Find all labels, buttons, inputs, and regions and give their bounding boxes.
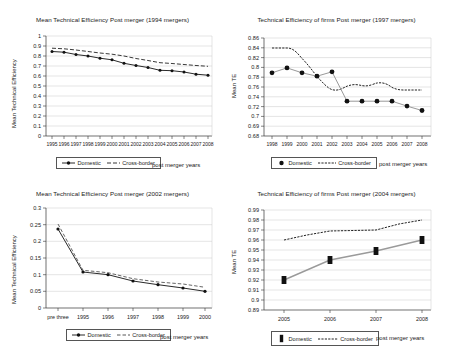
- svg-text:0.95: 0.95: [248, 247, 259, 253]
- svg-text:0.93: 0.93: [248, 267, 259, 273]
- svg-text:1997: 1997: [70, 141, 81, 147]
- svg-text:0.94: 0.94: [248, 257, 259, 263]
- gridlines: [264, 210, 431, 300]
- svg-text:1996: 1996: [102, 314, 114, 320]
- svg-text:2003: 2003: [341, 141, 352, 147]
- chart-legend[interactable]: Domestic Cross-border: [66, 329, 171, 341]
- svg-text:0.91: 0.91: [248, 287, 259, 293]
- series-domestic-line: [272, 68, 422, 111]
- svg-text:0.76: 0.76: [248, 84, 259, 90]
- series-crossborder: [58, 224, 205, 287]
- svg-text:2000: 2000: [199, 314, 211, 320]
- chart-panel-1997: Technical Efficiency of firms Post merge…: [224, 0, 449, 182]
- series-domestic: [58, 229, 205, 291]
- legend-item-domestic[interactable]: Domestic: [277, 334, 312, 343]
- svg-text:0.74: 0.74: [248, 94, 259, 100]
- svg-text:2005: 2005: [371, 141, 382, 147]
- legend-item-crossborder[interactable]: Cross-border: [117, 332, 165, 338]
- series-crossborder: [52, 48, 208, 66]
- svg-text:0.6: 0.6: [33, 73, 41, 79]
- x-axis-caption: post merger years: [152, 162, 200, 168]
- legend-domestic-icon: [72, 332, 85, 338]
- gridlines: [46, 208, 212, 291]
- plot-area: 10.9 0.80.7 0.60.5 0.40.3 0.20.1 0 19951…: [0, 0, 225, 182]
- svg-text:0.78: 0.78: [248, 74, 259, 80]
- svg-text:0: 0: [38, 305, 41, 311]
- x-ticks: [272, 136, 422, 139]
- x-tick-labels: 19951996 19971998 19992000 20012002 2003…: [46, 141, 213, 147]
- plot-svg: 0.860.84 0.820.8 0.780.76 0.740.72 0.70.…: [224, 0, 449, 182]
- svg-text:0.2: 0.2: [33, 238, 41, 244]
- legend-crossborder-icon: [117, 332, 130, 338]
- legend-domestic-icon: [277, 334, 286, 343]
- y-tick-labels: 0.860.84 0.820.8 0.780.76 0.740.72 0.70.…: [248, 35, 259, 139]
- figure-grid: Mean Technical Efficiency Post merger (1…: [0, 0, 449, 364]
- svg-text:2004: 2004: [154, 141, 165, 147]
- chart-legend[interactable]: Domestic Cross-border: [271, 331, 379, 346]
- svg-text:2000: 2000: [106, 141, 117, 147]
- svg-text:0.1: 0.1: [33, 272, 41, 278]
- legend-domestic-icon: [277, 160, 286, 166]
- svg-text:1: 1: [38, 33, 41, 39]
- x-axis-caption: post merger years: [379, 161, 427, 167]
- svg-text:2005: 2005: [278, 316, 290, 322]
- svg-text:0.3: 0.3: [33, 205, 41, 211]
- legend-domestic-icon: [62, 160, 75, 166]
- x-axis-caption: post merger years: [160, 334, 208, 340]
- svg-text:2003: 2003: [142, 141, 153, 147]
- svg-text:2008: 2008: [202, 141, 213, 147]
- svg-text:2007: 2007: [401, 141, 412, 147]
- legend-label-crossborder: Cross-border: [122, 160, 155, 166]
- svg-text:0.8: 0.8: [251, 64, 259, 70]
- svg-text:0.82: 0.82: [248, 55, 259, 61]
- svg-text:0.1: 0.1: [33, 123, 41, 129]
- legend-label-crossborder: Cross-border: [338, 160, 371, 166]
- legend-item-domestic[interactable]: Domestic: [72, 332, 111, 338]
- svg-text:0.15: 0.15: [30, 255, 41, 261]
- svg-text:2001: 2001: [311, 141, 322, 147]
- legend-item-crossborder[interactable]: Cross-border: [107, 160, 155, 166]
- svg-text:0.8: 0.8: [33, 53, 41, 59]
- svg-text:0.7: 0.7: [251, 113, 259, 119]
- svg-text:0.89: 0.89: [248, 307, 259, 313]
- y-tick-labels: 10.9 0.80.7 0.60.5 0.40.3 0.20.1 0: [33, 33, 41, 139]
- legend-label-crossborder: Cross-border: [340, 336, 373, 342]
- svg-text:2006: 2006: [324, 316, 336, 322]
- svg-text:1996: 1996: [58, 141, 69, 147]
- chart-panel-1994: Mean Technical Efficiency Post merger (1…: [0, 0, 225, 182]
- legend-label-domestic: Domestic: [78, 160, 101, 166]
- legend-item-crossborder[interactable]: Cross-border: [318, 336, 373, 342]
- svg-text:2008: 2008: [416, 316, 428, 322]
- svg-text:0.98: 0.98: [248, 217, 259, 223]
- svg-text:1999: 1999: [281, 141, 292, 147]
- svg-text:0.5: 0.5: [33, 83, 41, 89]
- x-axis-caption: post merger years: [376, 335, 424, 341]
- chart-legend[interactable]: Domestic Cross-border: [56, 157, 161, 169]
- svg-text:0.68: 0.68: [248, 133, 259, 139]
- svg-text:0.2: 0.2: [33, 113, 41, 119]
- legend-crossborder-icon: [318, 336, 338, 342]
- svg-text:1999: 1999: [94, 141, 105, 147]
- svg-text:2000: 2000: [296, 141, 307, 147]
- y-ticks: [43, 36, 46, 136]
- svg-text:0.25: 0.25: [30, 222, 41, 228]
- legend-item-domestic[interactable]: Domestic: [277, 160, 312, 166]
- legend-crossborder-icon: [107, 160, 120, 166]
- svg-text:2002: 2002: [130, 141, 141, 147]
- legend-item-domestic[interactable]: Domestic: [62, 160, 101, 166]
- legend-label-domestic: Domestic: [88, 332, 111, 338]
- svg-text:2001: 2001: [118, 141, 129, 147]
- svg-text:0.99: 0.99: [248, 207, 259, 213]
- svg-text:2005: 2005: [166, 141, 177, 147]
- chart-panel-2004: Technical Efficiency of firms Post merge…: [224, 182, 449, 364]
- gridlines: [264, 38, 431, 126]
- plot-svg: 10.9 0.80.7 0.60.5 0.40.3 0.20.1 0 19951…: [0, 0, 225, 182]
- series-domestic-markers: [270, 66, 425, 113]
- svg-text:2007: 2007: [370, 316, 382, 322]
- chart-legend[interactable]: Domestic Cross-border: [271, 157, 377, 169]
- svg-text:0.97: 0.97: [248, 227, 259, 233]
- x-tick-labels: pre three1995 19961997 19981999 2000: [47, 314, 211, 320]
- legend-item-crossborder[interactable]: Cross-border: [318, 160, 371, 166]
- svg-text:1998: 1998: [82, 141, 93, 147]
- x-tick-labels: 20052006 20072008: [278, 316, 428, 322]
